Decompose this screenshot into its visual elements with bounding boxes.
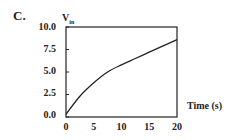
plot-area (0, 0, 233, 140)
vin-curve (66, 40, 177, 115)
plot-frame (66, 27, 177, 117)
